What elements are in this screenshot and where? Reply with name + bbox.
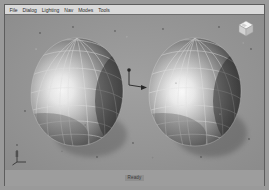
scene-render [5,15,264,170]
app-window: File Dialog Lighting Nav Modes Tools [0,0,269,190]
menu-bar: File Dialog Lighting Nav Modes Tools [5,5,264,15]
menu-dialog[interactable]: Dialog [20,7,39,13]
menu-tools[interactable]: Tools [96,7,113,13]
axis-gizmo[interactable] [11,146,31,166]
menu-nav[interactable]: Nav [62,7,76,13]
move-manipulator[interactable] [127,68,147,90]
menu-modes[interactable]: Modes [76,7,96,13]
status-text: Ready [125,175,143,181]
menu-file[interactable]: File [7,7,20,13]
status-bar: Ready [5,170,264,186]
egg-surface-left[interactable] [5,38,163,161]
viewport-3d[interactable] [5,15,264,171]
manipulator-handle-y[interactable] [127,68,131,72]
axis-gizmo-body [16,151,19,157]
manipulator-handle-x[interactable] [141,85,147,90]
axis-z [13,162,18,165]
menu-lighting[interactable]: Lighting [39,7,62,13]
view-cube[interactable] [236,19,256,39]
